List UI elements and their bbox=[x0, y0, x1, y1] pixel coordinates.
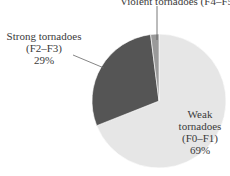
label-weak-subtitle: tornadoes bbox=[170, 120, 230, 132]
label-weak-range: (F0–F1) bbox=[170, 132, 230, 144]
label-strong-range: (F2–F3) bbox=[2, 42, 86, 54]
label-strong-percent: 29% bbox=[2, 54, 86, 66]
label-violent-text: Violent tornadoes (F4–F5) 2% bbox=[120, 0, 230, 7]
label-violent-tornadoes: Violent tornadoes (F4–F5) 2% bbox=[120, 0, 230, 7]
label-weak-title: Weak bbox=[170, 108, 230, 120]
label-weak-percent: 69% bbox=[170, 144, 230, 156]
label-strong-title: Strong tornadoes bbox=[2, 30, 86, 42]
label-weak-tornadoes: Weak tornadoes (F0–F1) 69% bbox=[170, 108, 230, 156]
label-strong-tornadoes: Strong tornadoes (F2–F3) 29% bbox=[2, 30, 86, 66]
